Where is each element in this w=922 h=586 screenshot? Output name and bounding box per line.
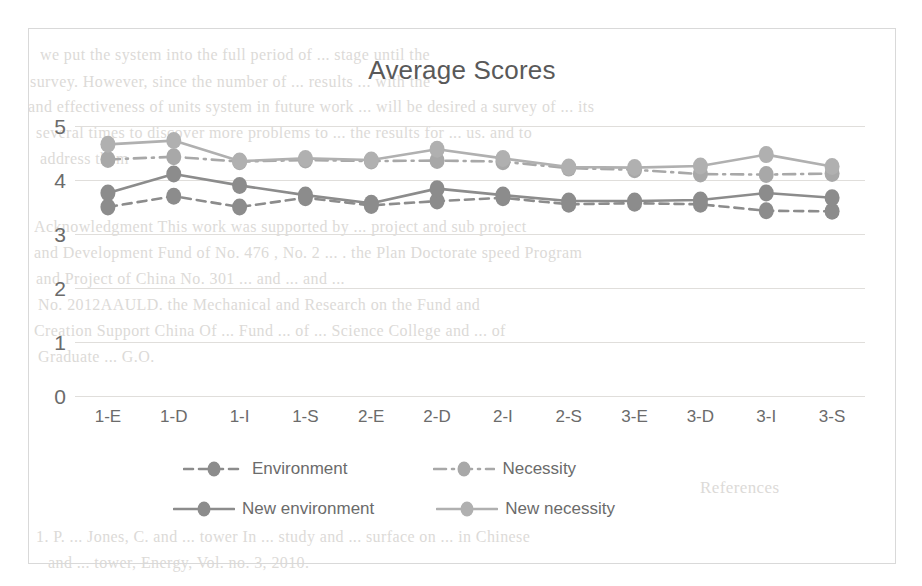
legend-label-new-environment: New environment: [242, 499, 374, 519]
data-point-marker: [232, 199, 247, 216]
series-line: [108, 141, 832, 168]
data-point-marker: [495, 187, 510, 204]
plot-area: 543210: [75, 126, 865, 396]
data-point-marker: [232, 177, 247, 194]
chart-title: Average Scores: [29, 55, 895, 86]
data-point-marker: [693, 157, 708, 174]
legend-swatch-necessity: [433, 461, 495, 477]
data-point-marker: [430, 180, 445, 197]
y-axis-tick-label: 0: [54, 386, 66, 407]
data-point-marker: [166, 188, 181, 205]
data-point-marker: [232, 153, 247, 170]
y-axis-tick-label: 2: [54, 278, 66, 299]
legend-label-new-necessity: New necessity: [505, 499, 615, 519]
x-axis-tick-label: 3-D: [667, 407, 733, 433]
gridline: [75, 396, 865, 397]
data-point-marker: [627, 193, 642, 210]
data-point-marker: [364, 152, 379, 169]
data-point-marker: [561, 193, 576, 210]
series-lines: [75, 126, 865, 396]
y-axis-tick-label: 3: [54, 224, 66, 245]
x-axis-tick-label: 3-I: [733, 407, 799, 433]
data-point-marker: [825, 189, 840, 206]
data-point-marker: [298, 150, 313, 167]
data-point-marker: [166, 132, 181, 149]
x-axis-tick-label: 1-S: [272, 407, 338, 433]
series-new-necessity: [100, 132, 839, 176]
y-axis-tick-label: 4: [54, 170, 66, 191]
data-point-marker: [759, 166, 774, 183]
chart-container: Average Scores 543210 1-E1-D1-I1-S2-E2-D…: [28, 28, 896, 564]
chart-legend: Environment Necessity New environment Ne…: [75, 449, 865, 529]
data-point-marker: [166, 148, 181, 165]
legend-item-environment[interactable]: Environment: [183, 459, 347, 479]
x-axis-tick-label: 3-E: [602, 407, 668, 433]
x-axis-tick-label: 1-E: [75, 407, 141, 433]
data-point-marker: [561, 159, 576, 176]
x-axis-tick-label: 3-S: [799, 407, 865, 433]
series-new-environment: [100, 166, 839, 212]
legend-item-new-environment[interactable]: New environment: [173, 499, 374, 519]
x-axis-tick-label: 2-D: [404, 407, 470, 433]
data-point-marker: [759, 202, 774, 219]
data-point-marker: [430, 141, 445, 158]
data-point-marker: [825, 158, 840, 175]
x-axis-tick-label: 2-S: [536, 407, 602, 433]
x-axis-tick-label: 1-D: [141, 407, 207, 433]
data-point-marker: [100, 136, 115, 153]
y-axis-tick-label: 1: [54, 332, 66, 353]
data-point-marker: [166, 166, 181, 183]
legend-item-necessity[interactable]: Necessity: [433, 459, 576, 479]
y-axis-tick-label: 5: [54, 116, 66, 137]
data-point-marker: [298, 187, 313, 204]
series-line: [108, 157, 832, 175]
legend-swatch-environment: [183, 461, 245, 477]
legend-row-2: New environment New necessity: [75, 489, 865, 529]
legend-item-new-necessity[interactable]: New necessity: [436, 499, 615, 519]
data-point-marker: [693, 191, 708, 208]
data-point-marker: [364, 195, 379, 212]
x-axis-tick-label: 1-I: [207, 407, 273, 433]
x-axis-tick-labels: 1-E1-D1-I1-S2-E2-D2-I2-S3-E3-D3-I3-S: [75, 407, 865, 433]
data-point-marker: [759, 184, 774, 201]
legend-swatch-new-necessity: [436, 501, 498, 517]
data-point-marker: [627, 159, 642, 176]
x-axis-tick-label: 2-E: [338, 407, 404, 433]
legend-swatch-new-environment: [173, 501, 235, 517]
legend-label-environment: Environment: [252, 459, 347, 479]
x-axis-tick-label: 2-I: [470, 407, 536, 433]
data-point-marker: [759, 146, 774, 163]
legend-label-necessity: Necessity: [502, 459, 576, 479]
data-point-marker: [100, 151, 115, 168]
data-point-marker: [495, 150, 510, 167]
legend-row-1: Environment Necessity: [75, 449, 865, 489]
data-point-marker: [100, 184, 115, 201]
